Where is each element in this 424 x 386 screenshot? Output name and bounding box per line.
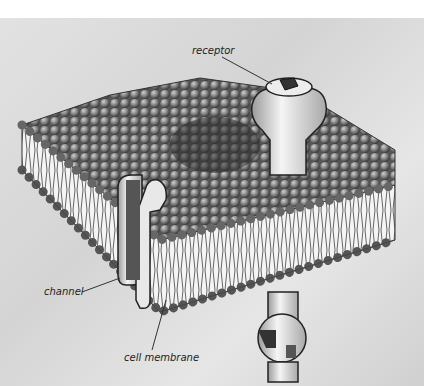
receptor-leader-line	[222, 57, 272, 84]
channel-leader-line	[82, 278, 120, 292]
channel-label: channel	[44, 286, 84, 297]
receptor-label: receptor	[192, 45, 234, 56]
cell-membrane-label: cell membrane	[124, 352, 199, 363]
receptor-protein-bottom	[258, 292, 306, 382]
membrane-illustration	[0, 0, 424, 386]
diagram-canvas: receptor channel cell membrane	[0, 0, 424, 386]
